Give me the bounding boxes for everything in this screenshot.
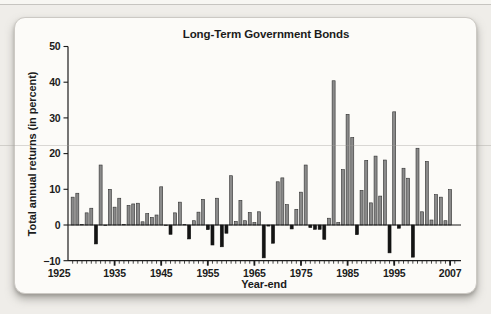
bar-1931 <box>94 225 97 244</box>
bar-1938 <box>127 205 130 225</box>
bar-1960 <box>230 176 233 225</box>
bar-1987 <box>355 225 358 235</box>
x-tick-label: 1975 <box>290 267 313 279</box>
bar-1970 <box>276 182 279 225</box>
y-tick-label: −10 <box>43 255 61 267</box>
bar-1951 <box>188 225 191 239</box>
bar-1971 <box>281 178 284 225</box>
bar-1932 <box>99 165 102 225</box>
bar-1988 <box>360 190 363 225</box>
bar-1991 <box>374 156 377 225</box>
x-tick-label: 1935 <box>103 267 126 279</box>
bar-1944 <box>155 215 158 225</box>
x-axis-title: Year-end <box>241 278 287 290</box>
bar-1959 <box>225 225 228 233</box>
bar-1934 <box>108 189 111 225</box>
y-tick-label: 50 <box>49 40 61 52</box>
bar-1956 <box>211 225 214 245</box>
bar-1980 <box>323 225 326 239</box>
bar-1955 <box>206 225 209 230</box>
chart-card: Long-Term Government Bonds Total annual … <box>14 17 477 294</box>
bar-1967 <box>262 225 265 258</box>
bar-1974 <box>295 209 298 225</box>
x-tick-label: 1945 <box>150 267 173 279</box>
y-tick-label: 30 <box>49 112 61 124</box>
bar-1992 <box>379 196 382 225</box>
bar-1998 <box>407 178 410 225</box>
bar-1961 <box>234 221 237 225</box>
x-tick-label: 1955 <box>197 267 220 279</box>
x-tick-label: 1965 <box>243 267 266 279</box>
bar-1929 <box>85 213 88 225</box>
bar-1954 <box>202 199 205 225</box>
bar-1984 <box>341 170 344 225</box>
bar-1926 <box>71 197 74 225</box>
chart-title: Long-Term Government Bonds <box>183 28 350 40</box>
bar-1978 <box>313 225 316 229</box>
x-tick-label: 1985 <box>336 267 359 279</box>
bar-1969 <box>272 225 275 243</box>
bar-1947 <box>169 225 172 234</box>
bar-1979 <box>318 225 321 229</box>
bar-2000 <box>416 148 419 225</box>
bar-2007 <box>449 190 452 225</box>
bar-1973 <box>290 225 293 229</box>
bar-1975 <box>300 192 303 225</box>
bar-1976 <box>304 165 307 225</box>
bar-1958 <box>220 225 223 247</box>
bar-1964 <box>248 213 251 225</box>
y-tick-label: 10 <box>49 183 61 195</box>
bar-2005 <box>439 197 442 225</box>
scanned-page: Long-Term Government Bonds Total annual … <box>0 0 491 314</box>
bar-2002 <box>425 161 428 225</box>
bar-1953 <box>197 212 200 225</box>
bar-1930 <box>90 208 93 225</box>
bar-1949 <box>178 202 181 225</box>
bar-2001 <box>421 212 424 225</box>
y-tick-label: 40 <box>49 76 61 88</box>
page-rule-line <box>0 4 491 5</box>
bar-1962 <box>239 200 242 225</box>
y-axis-title: Total annual returns (in percent) <box>26 71 38 236</box>
y-tick-label: 20 <box>49 147 61 159</box>
bar-1940 <box>136 203 139 225</box>
bar-1966 <box>258 212 261 225</box>
bar-1989 <box>365 160 368 225</box>
bar-1952 <box>192 221 195 225</box>
bar-1936 <box>118 198 121 225</box>
bar-1997 <box>402 168 405 225</box>
x-tick-label: 2007 <box>439 267 462 279</box>
plot-generated: 50403020100−1019251935194519551965197519… <box>43 40 461 278</box>
bar-1995 <box>393 112 396 225</box>
bar-1943 <box>150 218 153 226</box>
bar-1981 <box>327 218 330 225</box>
bar-1986 <box>351 138 354 225</box>
y-tick-label: 0 <box>55 219 61 231</box>
bar-1948 <box>174 213 177 225</box>
bar-1963 <box>244 221 247 225</box>
bar-1994 <box>388 225 391 253</box>
bar-1945 <box>160 187 163 225</box>
bar-1999 <box>411 225 414 257</box>
bar-1982 <box>332 81 335 225</box>
bar-1927 <box>76 193 79 225</box>
bar-1939 <box>132 204 135 225</box>
bar-2004 <box>435 195 438 225</box>
bar-chart-svg: Long-Term Government Bonds Total annual … <box>15 18 478 295</box>
x-tick-label: 1995 <box>383 267 406 279</box>
bar-1942 <box>146 214 149 225</box>
bar-1957 <box>216 198 219 225</box>
x-tick-label: 1925 <box>48 267 71 279</box>
bar-2003 <box>430 220 433 225</box>
bar-2006 <box>444 221 447 225</box>
bar-1993 <box>383 160 386 225</box>
bar-1990 <box>369 203 372 225</box>
bar-1985 <box>346 114 349 225</box>
bar-1935 <box>113 207 116 225</box>
bar-1972 <box>286 205 289 225</box>
